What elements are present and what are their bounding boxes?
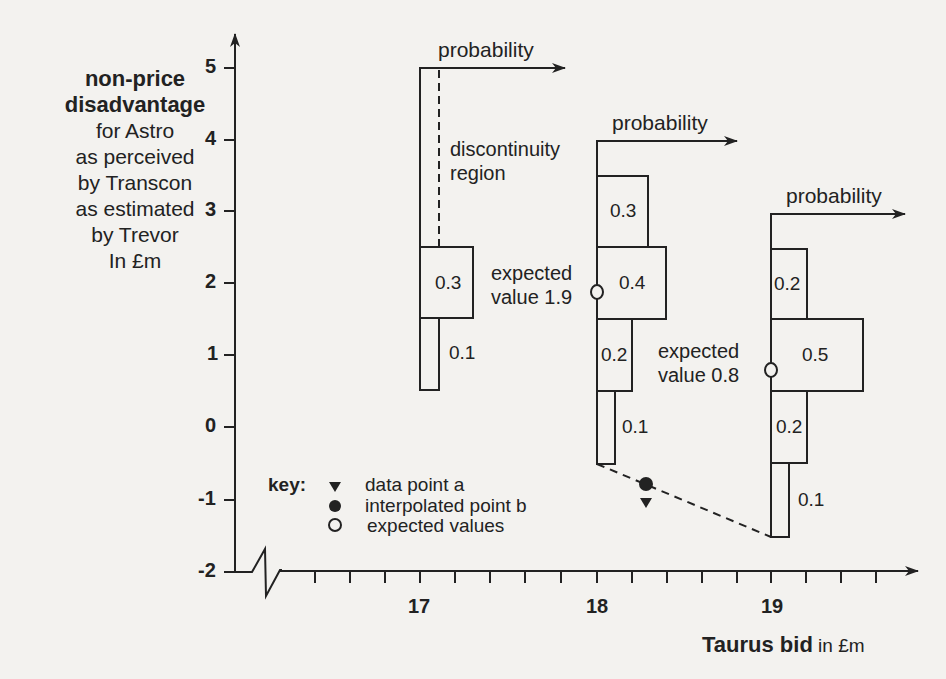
y-title-line: by Transcon (60, 170, 210, 196)
x-tick-label: 19 (761, 595, 783, 618)
distribution-17 (420, 68, 565, 390)
y-title-bold-1: non-price (60, 66, 210, 92)
interpolated-point-b (639, 477, 653, 491)
expected-value-marker (765, 363, 777, 377)
y-title-line: for Astro (60, 118, 210, 144)
x-title-bold: Taurus bid (702, 632, 813, 657)
y-title-line: as perceived (60, 144, 210, 170)
x-title-rest: in £m (813, 635, 865, 656)
y-axis-title: non-price disadvantage for Astro as perc… (60, 66, 210, 274)
x-axis-title: Taurus bid in £m (702, 632, 865, 658)
discontinuity-label: region (450, 162, 506, 185)
key-item-expected-values: expected values (367, 515, 504, 537)
expected-value-label: expected (491, 262, 572, 285)
box-prob: 0.1 (622, 416, 648, 438)
expected-value-label: expected (658, 340, 739, 363)
distribution-18 (591, 141, 737, 464)
y-tick-label: -1 (198, 487, 216, 510)
y-tick-label: 0 (205, 414, 216, 437)
box-prob: 0.2 (774, 273, 800, 295)
key-triangle-icon (329, 482, 341, 492)
x-axis-ticks (315, 571, 876, 583)
y-tick-label: 5 (205, 55, 216, 78)
box-prob: 0.1 (449, 342, 475, 364)
expected-value-label: value 0.8 (658, 364, 739, 387)
probability-label-18: probability (612, 111, 708, 135)
expected-value-marker (591, 285, 603, 299)
y-tick-label: 2 (205, 270, 216, 293)
y-title-bold-2: disadvantage (60, 92, 210, 118)
x-tick-label: 18 (586, 595, 608, 618)
box-prob: 0.1 (798, 489, 824, 511)
y-axis-ticks (224, 68, 235, 572)
y-tick-label: 4 (205, 127, 216, 150)
y-title-line: by Trevor (60, 222, 210, 248)
box-prob: 0.2 (776, 416, 802, 438)
key-title: key: (268, 474, 306, 496)
y-tick-label: 3 (205, 198, 216, 221)
probability-label-19: probability (786, 184, 882, 208)
box-prob: 0.3 (610, 200, 636, 222)
box-prob: 0.2 (601, 344, 627, 366)
key-item-data-point: data point a (365, 474, 464, 496)
y-tick-label: -2 (198, 559, 216, 582)
discontinuity-label: discontinuity (450, 138, 560, 161)
box-prob: 0.3 (435, 272, 461, 294)
key-open-circle-icon (329, 519, 341, 531)
probability-label-17: probability (438, 38, 534, 62)
x-axis-break (235, 549, 282, 596)
key-filled-circle-icon (329, 500, 341, 512)
distribution-19 (765, 214, 905, 537)
box-prob: 0.5 (802, 344, 828, 366)
y-tick-label: 1 (207, 342, 218, 365)
key-item-interpolated-point: interpolated point b (365, 495, 527, 517)
y-title-line: as estimated (60, 196, 210, 222)
data-point-a (640, 498, 652, 508)
interpolation-line (597, 464, 771, 537)
box-prob: 0.4 (619, 272, 645, 294)
y-title-line: In £m (60, 248, 210, 274)
expected-value-label: value 1.9 (491, 286, 572, 309)
x-tick-label: 17 (408, 595, 430, 618)
